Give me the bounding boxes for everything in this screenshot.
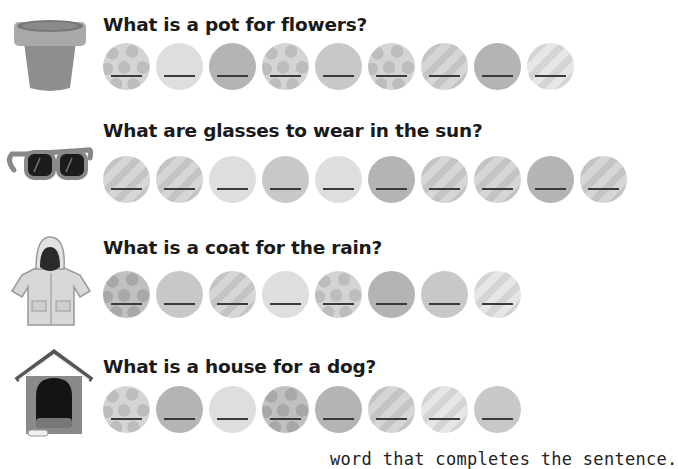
- letter-blank[interactable]: [474, 156, 521, 203]
- question-text: What is a coat for the rain?: [103, 237, 382, 258]
- letter-blank[interactable]: [209, 271, 256, 318]
- letter-blank[interactable]: [421, 156, 468, 203]
- sunglasses-icon: [0, 110, 100, 210]
- letter-blank[interactable]: [474, 386, 521, 433]
- letter-blank[interactable]: [421, 271, 468, 318]
- letter-blank[interactable]: [315, 386, 362, 433]
- letter-blank[interactable]: [315, 43, 362, 90]
- letter-blank[interactable]: [103, 43, 150, 90]
- answer-blanks: [103, 271, 521, 318]
- letter-blank[interactable]: [209, 43, 256, 90]
- letter-blank[interactable]: [315, 156, 362, 203]
- answer-blanks: [103, 43, 574, 90]
- letter-blank[interactable]: [209, 386, 256, 433]
- letter-blank[interactable]: [262, 156, 309, 203]
- answer-blanks: [103, 386, 521, 433]
- letter-blank[interactable]: [209, 156, 256, 203]
- letter-blank[interactable]: [421, 386, 468, 433]
- letter-blank[interactable]: [156, 386, 203, 433]
- letter-blank[interactable]: [474, 43, 521, 90]
- letter-blank[interactable]: [262, 271, 309, 318]
- letter-blank[interactable]: [315, 271, 362, 318]
- answer-blanks: [103, 156, 627, 203]
- instruction-text: word that completes the sentence.: [330, 449, 678, 469]
- letter-blank[interactable]: [156, 156, 203, 203]
- letter-blank[interactable]: [368, 271, 415, 318]
- letter-blank[interactable]: [368, 43, 415, 90]
- letter-blank[interactable]: [103, 386, 150, 433]
- letter-blank[interactable]: [527, 43, 574, 90]
- raincoat-icon: [0, 229, 100, 329]
- letter-blank[interactable]: [368, 156, 415, 203]
- question-text: What are glasses to wear in the sun?: [103, 120, 483, 141]
- letter-blank[interactable]: [262, 386, 309, 433]
- letter-blank[interactable]: [103, 271, 150, 318]
- question-text: What is a house for a dog?: [103, 356, 376, 377]
- letter-blank[interactable]: [262, 43, 309, 90]
- doghouse-icon: [0, 344, 100, 444]
- flower-pot-icon: [0, 4, 100, 104]
- letter-blank[interactable]: [421, 43, 468, 90]
- letter-blank[interactable]: [580, 156, 627, 203]
- letter-blank[interactable]: [156, 271, 203, 318]
- letter-blank[interactable]: [527, 156, 574, 203]
- letter-blank[interactable]: [156, 43, 203, 90]
- question-text: What is a pot for flowers?: [103, 14, 367, 35]
- letter-blank[interactable]: [474, 271, 521, 318]
- letter-blank[interactable]: [368, 386, 415, 433]
- letter-blank[interactable]: [103, 156, 150, 203]
